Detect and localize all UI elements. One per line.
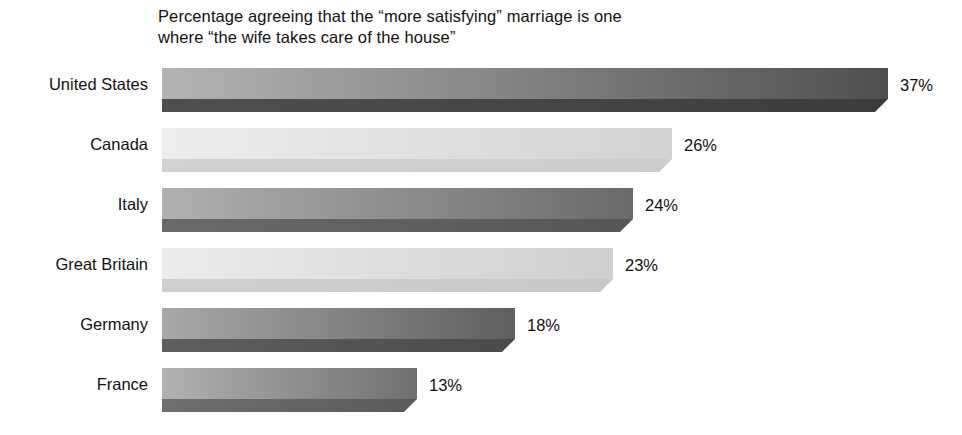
bar-row: France13%: [0, 362, 962, 422]
value-label: 13%: [429, 375, 462, 395]
value-label: 18%: [527, 315, 560, 335]
category-label: Great Britain: [0, 254, 148, 274]
category-label: Canada: [0, 134, 148, 154]
plot-area: United States37%Canada26%Italy24%Great B…: [0, 62, 962, 435]
value-label: 24%: [645, 195, 678, 215]
bar-row: Italy24%: [0, 182, 962, 242]
bar-shape: [162, 308, 515, 352]
bar-shape: [162, 248, 613, 292]
bar-row: Great Britain23%: [0, 242, 962, 302]
chart-title-line-1: Percentage agreeing that the “more satis…: [158, 6, 818, 27]
bar-chart-figure: Percentage agreeing that the “more satis…: [0, 0, 962, 435]
chart-title: Percentage agreeing that the “more satis…: [158, 6, 818, 48]
bar-row: Germany18%: [0, 302, 962, 362]
value-label: 37%: [900, 75, 933, 95]
chart-title-line-2: where “the wife takes care of the house”: [158, 27, 818, 48]
value-label: 26%: [684, 135, 717, 155]
category-label: Italy: [0, 194, 148, 214]
bar-shape: [162, 128, 672, 172]
category-label: Germany: [0, 314, 148, 334]
category-label: United States: [0, 74, 148, 94]
bar-shape: [162, 188, 633, 232]
bar-shape: [162, 68, 888, 112]
bar-row: Canada26%: [0, 122, 962, 182]
category-label: France: [0, 374, 148, 394]
bar-row: United States37%: [0, 62, 962, 122]
bar-shape: [162, 368, 417, 412]
value-label: 23%: [625, 255, 658, 275]
